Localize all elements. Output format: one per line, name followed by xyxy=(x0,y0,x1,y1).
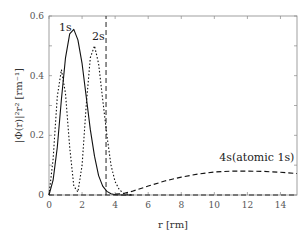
x-tick-label: 4 xyxy=(112,200,118,210)
y-axis-label: |Φ(r)|²r² [rm⁻¹] xyxy=(13,68,25,143)
x-tick-label: 2 xyxy=(79,200,85,210)
y-tick-label: 0.4 xyxy=(30,71,45,81)
annotation-label: 4s(atomic 1s) xyxy=(219,151,294,164)
x-tick-label: 6 xyxy=(145,200,151,210)
x-axis-label: r [rm] xyxy=(158,219,188,230)
series-2s xyxy=(49,46,132,195)
series-4s-atomic-1s- xyxy=(115,171,297,194)
y-tick-label: 0.6 xyxy=(30,11,45,21)
series-1s xyxy=(49,29,132,195)
chart: 0246810121400.20.40.6r [rm]|Φ(r)|²r² [rm… xyxy=(0,0,308,237)
x-tick-label: 8 xyxy=(178,200,184,210)
annotation-label: 1s xyxy=(59,21,72,34)
x-tick-label: 14 xyxy=(275,200,287,210)
x-tick-label: 0 xyxy=(46,200,52,210)
annotation-label: 2s xyxy=(92,30,105,43)
x-tick-label: 12 xyxy=(242,200,253,210)
x-tick-label: 10 xyxy=(209,200,221,210)
y-tick-label: 0.2 xyxy=(30,130,44,140)
y-tick-label: 0 xyxy=(38,190,44,200)
